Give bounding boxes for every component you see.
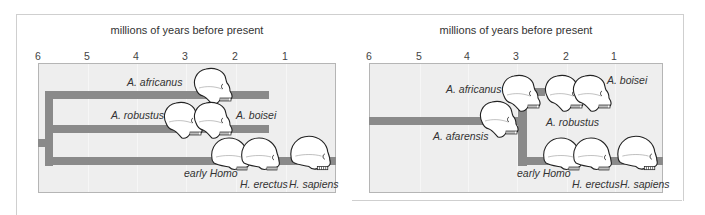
africanus-skull-icon <box>498 74 542 114</box>
tick-6: 6 <box>366 50 372 62</box>
gridline <box>420 64 421 192</box>
tick-5: 5 <box>416 50 422 62</box>
tick-2: 2 <box>563 50 569 62</box>
axis-title: millions of years before present <box>440 24 593 36</box>
right-panel: millions of years before present 6 5 4 3… <box>0 0 705 215</box>
tick-3: 3 <box>513 50 519 62</box>
tick-1: 1 <box>611 50 617 62</box>
label-early-homo: early Homo <box>517 167 571 179</box>
label-a-robustus: A. robustus <box>546 116 599 128</box>
label-a-afarensis: A. afarensis <box>433 130 488 142</box>
label-h-sapiens: H. sapiens <box>620 178 670 190</box>
tick-4: 4 <box>464 50 470 62</box>
label-h-erectus: H. erectus <box>572 178 620 190</box>
sapiens-skull-icon <box>614 133 660 175</box>
label-a-africanus: A. africanus <box>446 83 501 95</box>
label-a-boisei: A. boisei <box>607 74 647 86</box>
erectus-skull-icon <box>570 135 614 175</box>
